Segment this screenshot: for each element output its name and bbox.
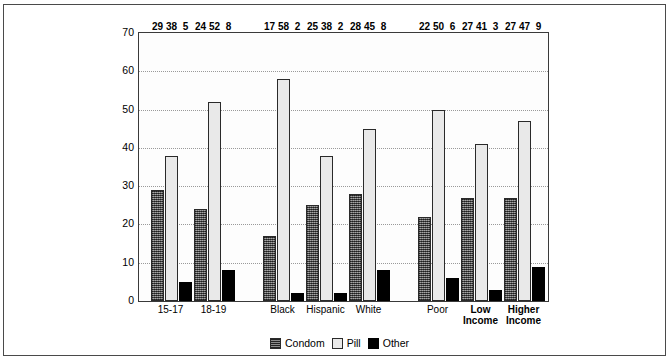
bar-rect: 17 [263,236,276,301]
bar-value-label: 38 [321,21,332,32]
bar-value-label: 5 [183,21,189,32]
bar-condom: 25 [306,33,319,301]
y-axis-tick-40: 40 [106,142,134,152]
bar-pill: 41 [475,33,488,301]
bar-value-label: 27 [505,21,516,32]
bar-rect: 24 [194,209,207,301]
x-axis-label: 18-19 [181,305,246,316]
bar-rect: 38 [165,156,178,301]
bar-rect: 27 [461,198,474,301]
bar-rect: 3 [489,290,502,301]
bar-rect: 45 [363,129,376,301]
bar-group: 27479 [504,33,545,301]
legend-swatch-condom [270,338,281,349]
bar-value-label: 52 [209,21,220,32]
bar-value-label: 22 [419,21,430,32]
legend-label: Condom [285,337,325,349]
bar-value-label: 8 [381,21,387,32]
bar-value-label: 27 [462,21,473,32]
bar-group: 28458 [349,33,390,301]
bar-groups: 2938524528175822538228458225062741327479 [139,33,548,301]
bar-rect: 8 [222,270,235,301]
bar-rect: 2 [334,293,347,301]
x-axis-label: White [336,305,401,316]
bar-rect: 52 [208,102,221,301]
bar-value-label: 29 [152,21,163,32]
bar-pill: 52 [208,33,221,301]
legend-item-pill[interactable]: Pill [332,337,361,349]
bar-pill: 45 [363,33,376,301]
bar-other: 8 [222,33,235,301]
bar-value-label: 41 [476,21,487,32]
y-axis-tick-60: 60 [106,65,134,75]
bar-value-label: 50 [433,21,444,32]
bar-pill: 50 [432,33,445,301]
bar-value-label: 58 [278,21,289,32]
y-axis-tick-0: 0 [106,295,134,305]
bar-value-label: 28 [350,21,361,32]
bar-rect: 27 [504,198,517,301]
bar-pill: 58 [277,33,290,301]
bar-pill: 47 [518,33,531,301]
chart-frame: 706050403020100 293852452817582253822845… [3,4,666,356]
bar-value-label: 9 [536,21,542,32]
bar-rect: 9 [532,267,545,301]
bar-other: 3 [489,33,502,301]
bar-rect: 38 [320,156,333,301]
x-axis-labels: 15-1718-19BlackHispanicWhitePoorLowIncom… [4,305,671,335]
bar-value-label: 3 [493,21,499,32]
bar-condom: 24 [194,33,207,301]
bar-group: 27413 [461,33,502,301]
legend-label: Pill [347,337,361,349]
bar-value-label: 17 [264,21,275,32]
bar-other: 2 [334,33,347,301]
y-axis-tick-10: 10 [106,257,134,267]
bar-other: 5 [179,33,192,301]
bar-rect: 47 [518,121,531,301]
bar-other: 6 [446,33,459,301]
bar-value-label: 6 [450,21,456,32]
legend-label: Other [383,337,409,349]
bar-value-label: 2 [338,21,344,32]
bar-group: 17582 [263,33,304,301]
bar-value-label: 38 [166,21,177,32]
bar-value-label: 45 [364,21,375,32]
bar-condom: 22 [418,33,431,301]
bar-other: 9 [532,33,545,301]
bar-condom: 17 [263,33,276,301]
bar-group: 25382 [306,33,347,301]
bar-rect: 2 [291,293,304,301]
bar-pill: 38 [165,33,178,301]
legend-item-condom[interactable]: Condom [270,337,325,349]
legend-swatch-other [368,338,379,349]
bar-condom: 27 [504,33,517,301]
legend-swatch-pill [332,338,343,349]
bar-rect: 29 [151,190,164,301]
bar-value-label: 24 [195,21,206,32]
bar-value-label: 25 [307,21,318,32]
bar-rect: 50 [432,110,445,301]
bar-rect: 6 [446,278,459,301]
bar-rect: 5 [179,282,192,301]
bar-rect: 8 [377,270,390,301]
y-axis-tick-50: 50 [106,104,134,114]
y-axis-tick-30: 30 [106,180,134,190]
chart-legend: CondomPillOther [4,337,671,349]
bar-rect: 25 [306,205,319,301]
bar-rect: 28 [349,194,362,301]
bar-condom: 29 [151,33,164,301]
bar-group: 29385 [151,33,192,301]
bar-rect: 58 [277,79,290,301]
y-axis-tick-20: 20 [106,218,134,228]
bar-rect: 22 [418,217,431,301]
bar-value-label: 2 [295,21,301,32]
bar-pill: 38 [320,33,333,301]
bar-value-label: 8 [226,21,232,32]
bar-rect: 41 [475,144,488,301]
bar-other: 2 [291,33,304,301]
bar-other: 8 [377,33,390,301]
legend-item-other[interactable]: Other [368,337,409,349]
bar-condom: 27 [461,33,474,301]
x-axis-label: HigherIncome [491,305,556,326]
bar-group: 24528 [194,33,235,301]
